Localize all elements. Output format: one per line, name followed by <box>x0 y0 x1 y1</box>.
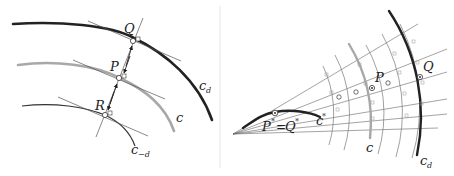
label-c-d: c d <box>199 78 211 95</box>
svg-text:d: d <box>427 161 432 170</box>
curve-c <box>349 44 371 138</box>
right-panel: P Q P * = Q * c * c c d <box>233 11 447 170</box>
svg-text:*: * <box>295 117 299 126</box>
label-q: Q <box>423 59 434 74</box>
label-c: c <box>366 140 374 155</box>
svg-text:*: * <box>271 117 275 126</box>
label-p: P <box>374 70 384 85</box>
arrow-p-to-r <box>108 92 114 110</box>
left-panel: Q P R c d c c −d <box>13 18 212 159</box>
label-q: Q <box>124 21 135 36</box>
label-c-minus-d: c −d <box>131 142 150 159</box>
point-q <box>417 74 422 79</box>
svg-text:−d: −d <box>138 150 150 159</box>
label-p: P <box>109 59 119 74</box>
offset-arcs <box>323 24 420 158</box>
curve-c-d <box>389 11 421 155</box>
label-c: c <box>176 110 184 125</box>
point-p <box>369 85 374 90</box>
svg-text:P: P <box>261 119 271 134</box>
offset-curves-figure: Q P R c d c c −d <box>0 0 454 176</box>
arrow-p-to-q <box>126 46 132 66</box>
label-r: R <box>94 98 105 113</box>
svg-text:d: d <box>206 86 211 95</box>
svg-text:*: * <box>322 112 326 121</box>
label-p-star-eq-q-star: P * = Q * <box>261 117 299 134</box>
point-p-star <box>272 110 278 116</box>
curve-c-minus-d <box>22 105 135 146</box>
label-c-d: c d <box>420 153 432 170</box>
